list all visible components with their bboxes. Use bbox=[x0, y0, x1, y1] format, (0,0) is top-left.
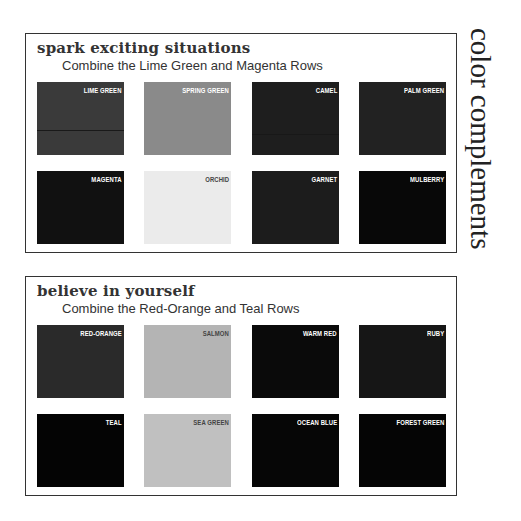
swatch-label: PALM GREEN bbox=[404, 87, 444, 94]
swatch-forest-green: FOREST GREEN bbox=[359, 414, 446, 487]
swatch-label: MAGENTA bbox=[92, 176, 122, 183]
panel-title: spark exciting situations bbox=[37, 39, 250, 57]
swatch-label: RUBY bbox=[427, 330, 444, 337]
swatch-label: ORCHID bbox=[205, 176, 229, 183]
swatch-red-orange: RED-ORANGE bbox=[37, 325, 124, 398]
scan-line bbox=[37, 130, 124, 131]
swatch-label: SPRING GREEN bbox=[182, 87, 229, 94]
swatch-palm-green: PALM GREEN bbox=[359, 82, 446, 155]
swatch-label: RED-ORANGE bbox=[80, 330, 122, 337]
swatch-orchid: ORCHID bbox=[144, 171, 231, 244]
swatch-ocean-blue: OCEAN BLUE bbox=[252, 414, 339, 487]
swatch-label: LIME GREEN bbox=[84, 87, 122, 94]
side-title: color complements bbox=[464, 28, 497, 249]
swatch-garnet: GARNET bbox=[252, 171, 339, 244]
swatch-lime-green: LIME GREEN bbox=[37, 82, 124, 155]
swatch-label: WARM RED bbox=[303, 330, 337, 337]
swatch-ruby: RUBY bbox=[359, 325, 446, 398]
swatch-label: OCEAN BLUE bbox=[297, 419, 337, 426]
swatch-label: SEA GREEN bbox=[193, 419, 229, 426]
swatch-label: MULBERRY bbox=[410, 176, 444, 183]
swatch-label: SALMON bbox=[203, 330, 229, 337]
swatch-spring-green: SPRING GREEN bbox=[144, 82, 231, 155]
panel-believe-in-yourself: believe in yourself Combine the Red-Oran… bbox=[25, 276, 457, 496]
panel-spark-exciting-situations: spark exciting situations Combine the Li… bbox=[25, 33, 457, 253]
swatch-warm-red: WARM RED bbox=[252, 325, 339, 398]
swatch-salmon: SALMON bbox=[144, 325, 231, 398]
swatch-teal: TEAL bbox=[37, 414, 124, 487]
panel-title: believe in yourself bbox=[37, 282, 195, 300]
swatch-camel: CAMEL bbox=[252, 82, 339, 155]
swatch-mulberry: MULBERRY bbox=[359, 171, 446, 244]
swatch-label: GARNET bbox=[311, 176, 337, 183]
panel-subtitle: Combine the Red-Orange and Teal Rows bbox=[62, 301, 300, 316]
panel-subtitle: Combine the Lime Green and Magenta Rows bbox=[62, 58, 323, 73]
swatch-sea-green: SEA GREEN bbox=[144, 414, 231, 487]
scan-line bbox=[252, 134, 339, 135]
swatch-label: TEAL bbox=[106, 419, 122, 426]
swatch-label: CAMEL bbox=[315, 87, 337, 94]
swatch-magenta: MAGENTA bbox=[37, 171, 124, 244]
swatch-label: FOREST GREEN bbox=[396, 419, 444, 426]
